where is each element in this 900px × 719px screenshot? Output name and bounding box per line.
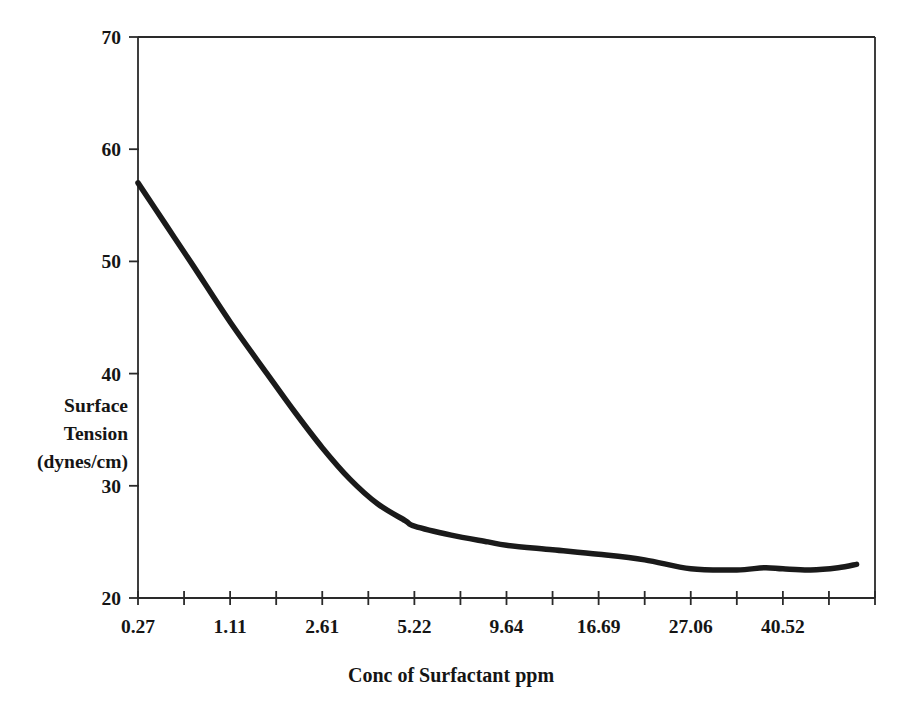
y-tick-label-40: 40 bbox=[102, 364, 122, 385]
y-axis-title-line-1: Surface bbox=[64, 395, 128, 416]
surface-tension-line-chart: 706050403020 0.271.112.615.229.6416.6927… bbox=[0, 0, 900, 719]
y-tick-label-60: 60 bbox=[102, 139, 122, 160]
x-tick-label-5.22: 5.22 bbox=[397, 616, 431, 637]
y-tick-label-30: 30 bbox=[102, 476, 122, 497]
x-axis-title: Conc of Surfactant ppm bbox=[348, 664, 554, 687]
x-tick-label-27.06: 27.06 bbox=[669, 616, 713, 637]
chart-container: 706050403020 0.271.112.615.229.6416.6927… bbox=[0, 0, 900, 719]
x-tick-label-16.69: 16.69 bbox=[577, 616, 621, 637]
y-tick-label-20: 20 bbox=[102, 588, 122, 609]
x-tick-label-0.27: 0.27 bbox=[121, 616, 155, 637]
y-axis-title-line-3: (dynes/cm) bbox=[37, 451, 128, 473]
x-tick-label-40.52: 40.52 bbox=[761, 616, 805, 637]
chart-background bbox=[0, 0, 900, 719]
x-tick-label-9.64: 9.64 bbox=[489, 616, 523, 637]
y-axis-title-line-2: Tension bbox=[64, 423, 128, 444]
x-tick-label-1.11: 1.11 bbox=[214, 616, 247, 637]
y-tick-label-50: 50 bbox=[102, 251, 122, 272]
x-tick-label-2.61: 2.61 bbox=[305, 616, 339, 637]
y-tick-label-70: 70 bbox=[102, 27, 122, 48]
